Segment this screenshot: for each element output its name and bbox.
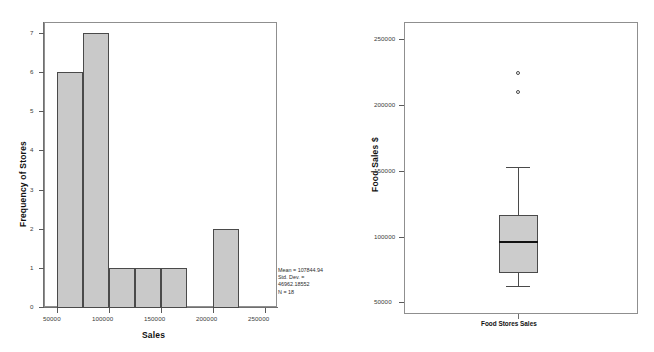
boxplot-category-tick — [518, 314, 519, 319]
boxplot-y-tick-50000 — [399, 302, 404, 303]
histogram-y-tick-label-6: 6 — [30, 68, 34, 75]
histogram-x-tick-label-50000: 50000 — [43, 315, 61, 322]
histogram-x-tick-200000 — [213, 308, 214, 313]
boxplot-y-axis-title: Food Sales $ — [370, 137, 380, 192]
boxplot-y-tick-100000 — [399, 237, 404, 238]
stat-std-dev-line1: Std. Dev. = — [278, 274, 330, 281]
histogram-y-tick-1 — [39, 268, 44, 269]
histogram-y-tick-7 — [39, 33, 44, 34]
boxplot-y-tick-150000 — [399, 171, 404, 172]
histogram-y-axis-line — [43, 22, 44, 308]
histogram-y-tick-label-4: 4 — [30, 146, 34, 153]
boxplot-panel: Food Sales $ 250000 200000 150000 100000… — [330, 0, 654, 352]
boxplot-y-tick-label-250000: 250000 — [374, 35, 395, 42]
boxplot-whisker-lower — [518, 273, 519, 287]
histogram-y-tick-label-5: 5 — [30, 107, 34, 114]
histogram-y-tick-label-1: 1 — [30, 264, 34, 271]
histogram-y-tick-3 — [39, 190, 44, 191]
histogram-x-tick-250000 — [265, 308, 266, 313]
stat-n: N = 18 — [278, 289, 330, 296]
histogram-y-axis-title: Frequency of Stores — [18, 141, 28, 227]
histogram-stats-annotation: Mean = 107844.94 Std. Dev. = 46962.18552… — [278, 267, 330, 296]
histogram-bar-4 — [135, 268, 161, 308]
histogram-x-tick-50000 — [57, 308, 58, 313]
boxplot-whisker-cap-lower — [506, 286, 530, 287]
histogram-y-tick-4 — [39, 150, 44, 151]
boxplot-outlier-high-1 — [516, 71, 520, 75]
histogram-x-tick-label-150000: 150000 — [144, 315, 165, 322]
histogram-x-tick-label-250000: 250000 — [248, 315, 269, 322]
boxplot-y-tick-label-100000: 100000 — [374, 233, 395, 240]
histogram-bar-2 — [83, 33, 109, 308]
histogram-y-tick-6 — [39, 72, 44, 73]
histogram-y-tick-label-3: 3 — [30, 186, 34, 193]
histogram-y-tick-0 — [39, 307, 44, 308]
histogram-y-tick-label-2: 2 — [30, 225, 34, 232]
boxplot-y-tick-200000 — [399, 105, 404, 106]
histogram-x-tick-label-100000: 100000 — [92, 315, 113, 322]
boxplot-outlier-high-2 — [516, 90, 520, 94]
boxplot-y-tick-label-200000: 200000 — [374, 101, 395, 108]
boxplot-whisker-upper — [518, 167, 519, 215]
histogram-x-tick-label-200000: 200000 — [196, 315, 217, 322]
statistics-figure: Frequency of Stores 7 6 5 4 3 2 1 0 5000… — [0, 0, 654, 352]
histogram-bar-5 — [161, 268, 187, 308]
boxplot-y-tick-label-50000: 50000 — [374, 298, 392, 305]
histogram-bar-1 — [57, 72, 83, 308]
histogram-y-tick-label-7: 7 — [30, 29, 34, 36]
boxplot-median-line — [499, 241, 538, 243]
stat-mean: Mean = 107844.94 — [278, 267, 330, 274]
histogram-panel: Frequency of Stores 7 6 5 4 3 2 1 0 5000… — [0, 0, 330, 352]
boxplot-y-tick-250000 — [399, 39, 404, 40]
stat-std-dev-line2: 46962.18552 — [278, 281, 330, 288]
histogram-x-tick-150000 — [161, 308, 162, 313]
boxplot-box — [499, 215, 538, 273]
histogram-bar-3 — [109, 268, 135, 308]
histogram-x-axis-title: Sales — [142, 330, 165, 340]
boxplot-category-label: Food Stores Sales — [481, 320, 537, 327]
histogram-x-tick-100000 — [109, 308, 110, 313]
boxplot-y-tick-label-150000: 150000 — [374, 167, 395, 174]
histogram-y-tick-label-0: 0 — [30, 303, 34, 310]
histogram-y-tick-2 — [39, 229, 44, 230]
histogram-y-tick-5 — [39, 111, 44, 112]
histogram-bar-7 — [213, 229, 239, 308]
